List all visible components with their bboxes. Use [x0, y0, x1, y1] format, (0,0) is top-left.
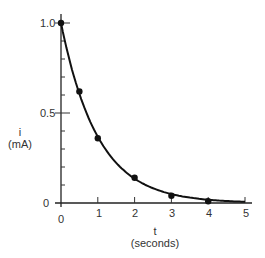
x-tick-label-1: 1	[96, 208, 102, 219]
x-tick-label-2: 2	[132, 208, 138, 219]
y-tick-label-0.5: 0.5	[40, 108, 55, 119]
data-point	[58, 20, 64, 26]
y-axis-label: i	[8, 127, 32, 138]
data-point	[205, 198, 211, 204]
data-point	[95, 135, 101, 141]
data-point	[168, 193, 174, 199]
x-tick-label-5: 5	[243, 208, 249, 219]
y-tick-label-1.0: 1.0	[40, 18, 55, 29]
x-tick-label-4: 4	[206, 208, 212, 219]
data-point	[76, 88, 82, 94]
x-tick-label-3: 3	[169, 208, 175, 219]
decay-curve	[61, 23, 245, 202]
data-point	[131, 175, 137, 181]
y-axis-unit: (mA)	[4, 139, 36, 150]
chart-plot	[0, 0, 265, 258]
x-tick-label-0: 0	[58, 214, 64, 225]
x-axis-label: t	[140, 226, 170, 237]
x-axis-unit: (seconds)	[125, 238, 185, 249]
y-tick-label-0: 0	[43, 198, 49, 209]
